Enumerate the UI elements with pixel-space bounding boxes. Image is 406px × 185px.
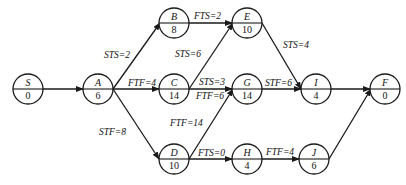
label-B-E: FTS=2 [193,11,221,21]
node-A: A 6 [83,74,113,104]
node-B: B 8 [159,8,189,38]
label-C-E: STS=6 [175,49,201,59]
node-F-duration: 0 [383,90,388,101]
label-A-C: FTF=4 [127,78,156,88]
label-G-I: STF=6 [265,78,292,88]
label-E-I: STS=4 [283,40,309,50]
edge-J-F [329,89,371,159]
node-J-name: J [312,147,317,158]
label-C-G-ftf: FTF=6 [195,91,224,101]
node-A-name: A [94,77,102,88]
node-E-duration: 10 [242,24,252,35]
label-A-B: STS=2 [104,50,130,60]
node-E-name: E [243,11,250,22]
precedence-network-diagram: STS=2 FTF=4 STF=8 FTS=2 STS=6 STS=3 FTF=… [0,0,406,185]
node-S-duration: 0 [26,90,31,101]
label-H-J: FTF=4 [265,147,294,157]
node-I: I 4 [301,74,331,104]
node-G-duration: 14 [242,90,252,101]
node-E: E 10 [232,8,262,38]
node-G-name: G [243,77,250,88]
node-A-duration: 6 [96,90,101,101]
label-D-H: FTS=0 [197,148,225,158]
node-D: D 10 [159,144,189,174]
label-D-G: FTF=14 [169,118,203,128]
node-J-duration: 6 [312,160,317,171]
label-C-G-sts: STS=3 [199,77,225,87]
node-H-name: H [242,147,251,158]
node-F: F 0 [370,74,400,104]
edge-A-D [113,89,159,159]
node-J: J 6 [299,144,329,174]
node-I-duration: 4 [314,90,319,101]
node-C-name: C [171,77,178,88]
node-B-name: B [171,11,177,22]
node-D-duration: 10 [169,160,179,171]
node-C: C 14 [159,74,189,104]
node-S: S 0 [13,74,43,104]
node-C-duration: 14 [169,90,179,101]
node-G: G 14 [232,74,262,104]
node-B-duration: 8 [172,24,177,35]
node-H: H 4 [232,144,262,174]
node-F-name: F [381,77,389,88]
label-A-D: STF=8 [99,127,126,137]
node-D-name: D [169,147,178,158]
node-I-name: I [313,77,318,88]
node-S-name: S [26,77,31,88]
node-H-duration: 4 [245,160,250,171]
